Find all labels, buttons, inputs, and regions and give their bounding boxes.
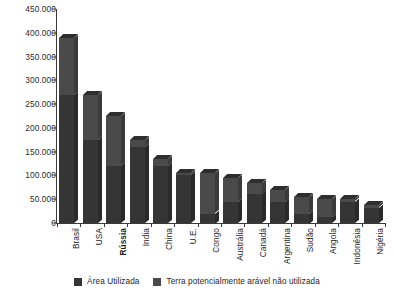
bar-face <box>176 175 191 223</box>
bar-segment-terra-potencial[interactable] <box>317 199 332 217</box>
bar-side-face <box>98 91 102 139</box>
x-axis-label-brasil: Brasil <box>72 228 81 249</box>
bar-side-face <box>191 172 195 223</box>
y-axis-tick-mark <box>52 56 56 57</box>
bar-face <box>223 178 238 202</box>
bar-face <box>270 202 285 223</box>
y-axis-tick-mark <box>52 223 56 224</box>
bar-face <box>153 159 168 166</box>
y-axis-tick-mark <box>52 80 56 81</box>
bar-top-face <box>83 91 102 95</box>
x-axis-label-usa: USA <box>95 228 104 245</box>
x-axis-tick-mark <box>127 223 128 227</box>
x-axis-label-ue: U.E. <box>189 228 198 244</box>
bar-segment-area-utilizada[interactable] <box>294 214 309 224</box>
bar-segment-terra-potencial[interactable] <box>223 178 238 202</box>
x-axis-label-indonsia: Indonésia <box>353 228 362 264</box>
bar-face <box>176 173 191 175</box>
bar-segment-terra-potencial[interactable] <box>153 159 168 166</box>
x-axis-label-sudo: Sudão <box>306 228 315 252</box>
chart-legend: Área UtilizadaTerra potencialmente aráve… <box>0 277 394 286</box>
bar-side-face <box>145 144 149 223</box>
bar-side-face <box>168 163 172 223</box>
plot-area <box>57 9 385 223</box>
bar-side-face <box>98 137 102 223</box>
legend-swatch <box>74 278 82 286</box>
bar-top-face <box>294 193 313 197</box>
bar-segment-area-utilizada[interactable] <box>364 208 379 223</box>
bar-face <box>200 214 215 224</box>
y-axis-tick-mark <box>52 151 56 152</box>
bar-face <box>223 202 238 223</box>
y-axis-tick-mark <box>52 127 56 128</box>
bar-segment-terra-potencial[interactable] <box>294 197 309 214</box>
bar-segment-area-utilizada[interactable] <box>200 214 215 224</box>
x-axis-tick-mark <box>362 223 363 227</box>
y-axis-tick-mark <box>52 32 56 33</box>
bar-segment-area-utilizada[interactable] <box>223 202 238 223</box>
bar-side-face <box>285 198 289 223</box>
bar-face <box>317 199 332 217</box>
bar-side-face <box>238 198 242 223</box>
bar-segment-terra-potencial[interactable] <box>247 183 262 195</box>
bar-segment-area-utilizada[interactable] <box>340 202 355 223</box>
bar-segment-terra-potencial[interactable] <box>130 140 145 147</box>
x-axis-label-nigria: Nigéria <box>376 228 385 255</box>
bar-segment-area-utilizada[interactable] <box>247 194 262 223</box>
bar-side-face <box>121 113 125 166</box>
bar-side-face <box>74 91 78 223</box>
bar-segment-terra-potencial[interactable] <box>200 173 215 213</box>
bar-face <box>83 140 98 223</box>
bar-face <box>59 38 74 95</box>
bar-segment-area-utilizada[interactable] <box>106 166 121 223</box>
y-axis-tick-mark <box>52 175 56 176</box>
bar-segment-terra-potencial[interactable] <box>59 38 74 95</box>
x-axis-tick-mark <box>198 223 199 227</box>
x-axis-tick-mark <box>268 223 269 227</box>
x-axis-tick-mark <box>315 223 316 227</box>
bar-segment-area-utilizada[interactable] <box>176 175 191 223</box>
x-axis-label-angola: Angola <box>329 228 338 254</box>
legend-item[interactable]: Terra potencialmente arável não utilizad… <box>153 277 319 286</box>
x-axis-label-argentina: Argentina <box>283 228 292 264</box>
bar-face <box>294 197 309 214</box>
x-axis-label-congo: Congo <box>212 228 221 253</box>
bar-side-face <box>332 196 336 217</box>
x-axis-label-china: China <box>165 228 174 250</box>
y-axis-tick-mark <box>52 104 56 105</box>
x-axis-tick-mark <box>151 223 152 227</box>
x-axis-tick-mark <box>291 223 292 227</box>
bar-segment-terra-potencial[interactable] <box>340 199 355 201</box>
bar-face <box>317 217 332 223</box>
x-axis-tick-mark <box>57 223 58 227</box>
bar-side-face <box>121 163 125 223</box>
y-axis-tick-mark <box>52 9 56 10</box>
bar-segment-terra-potencial[interactable] <box>364 205 379 207</box>
bar-face <box>364 205 379 207</box>
x-axis-label-rssia: Rússia <box>119 228 128 255</box>
legend-item[interactable]: Área Utilizada <box>74 277 139 286</box>
bar-segment-area-utilizada[interactable] <box>130 147 145 223</box>
x-axis-tick-mark <box>174 223 175 227</box>
bar-segment-area-utilizada[interactable] <box>270 202 285 223</box>
bar-side-face <box>262 191 266 223</box>
legend-label: Área Utilizada <box>87 277 139 286</box>
bar-side-face <box>379 205 383 223</box>
bar-segment-area-utilizada[interactable] <box>83 140 98 223</box>
bar-segment-terra-potencial[interactable] <box>176 173 191 175</box>
bar-face <box>106 166 121 223</box>
bar-segment-terra-potencial[interactable] <box>83 95 98 140</box>
x-axis-tick-mark <box>104 223 105 227</box>
bar-segment-area-utilizada[interactable] <box>153 166 168 223</box>
x-axis-tick-mark <box>244 223 245 227</box>
bar-side-face <box>215 170 219 214</box>
bar-face <box>83 95 98 140</box>
bar-face <box>130 140 145 147</box>
x-axis-tick-mark <box>338 223 339 227</box>
x-axis-tick-mark <box>385 223 386 227</box>
bar-segment-terra-potencial[interactable] <box>270 190 285 202</box>
bar-segment-terra-potencial[interactable] <box>106 116 121 166</box>
bar-face <box>340 199 355 201</box>
bar-face <box>106 116 121 166</box>
bar-segment-area-utilizada[interactable] <box>317 217 332 223</box>
